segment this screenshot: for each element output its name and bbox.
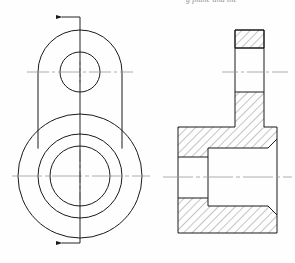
front-view-group <box>12 17 150 243</box>
hatch-region-boss-neck <box>235 92 264 127</box>
technical-drawing-canvas <box>0 0 295 263</box>
drawing-sheet: g plane and the <box>0 0 295 263</box>
hatch-region-flange-lower-left <box>178 198 235 233</box>
hatch-region-flange-lower-right <box>235 206 277 233</box>
hatch-region-flange-upper-left <box>178 127 235 157</box>
section-view-group <box>163 30 292 233</box>
hatch-region-boss-head <box>235 30 264 48</box>
